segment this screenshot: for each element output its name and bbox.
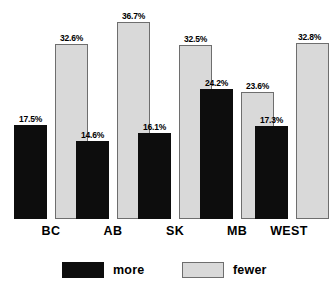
bar-fewer[interactable] — [296, 43, 329, 219]
chart-legend: more fewer — [0, 262, 323, 288]
plot-area: 17.5% 32.6% 14.6% 36.7% 16.1% — [0, 0, 323, 222]
bar-value-label: 17.5% — [8, 114, 54, 124]
legend-entry-fewer[interactable]: fewer — [182, 262, 267, 278]
bar-more[interactable] — [200, 89, 233, 219]
bar-more[interactable] — [138, 133, 171, 219]
legend-entry-more[interactable]: more — [62, 262, 144, 278]
bar-more[interactable] — [76, 141, 109, 219]
bar-more[interactable] — [255, 126, 288, 219]
legend-label-more: more — [113, 263, 144, 277]
bar-value-label: 24.2% — [194, 78, 240, 88]
bar-group: 17.3% 32.8% — [255, 3, 323, 219]
category-label-west: WEST — [255, 224, 323, 238]
bar-value-label: 16.1% — [132, 122, 178, 132]
legend-label-fewer: fewer — [233, 263, 267, 277]
category-axis: BC AB SK MB WEST — [0, 224, 323, 244]
bar-value-label: 14.6% — [70, 130, 116, 140]
bar-value-label: 17.3% — [249, 115, 295, 125]
bar-more[interactable] — [14, 125, 47, 219]
legend-swatch-fewer-icon — [182, 262, 224, 278]
legend-swatch-more-icon — [62, 262, 104, 278]
bar-value-label: 32.8% — [287, 32, 333, 42]
